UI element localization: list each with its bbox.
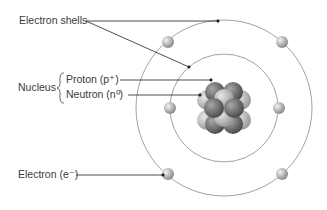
label-proton: Proton (p⁺) <box>66 73 119 85</box>
label-nucleus: Nucleus <box>18 81 56 93</box>
label-electron: Electron (e⁻) <box>18 168 78 180</box>
label-neutron: Neutron (n⁰) <box>66 88 123 100</box>
label-electron-shells: Electron shells <box>19 14 87 26</box>
atom-diagram: Electron shells Nucleus Proton (p⁺) Neut… <box>0 0 327 210</box>
nucleus <box>197 82 251 134</box>
nucleus-brace <box>57 73 64 103</box>
